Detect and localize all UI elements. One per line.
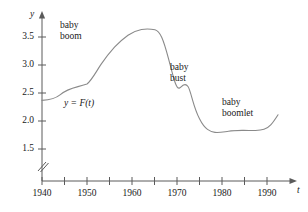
- annotation-baby-boom-line2: boom: [60, 31, 82, 42]
- x-axis-arrow-icon: [290, 178, 298, 184]
- x-tick-label-1940: 1940: [22, 189, 62, 199]
- annotation-baby-boom-line1: baby: [60, 20, 82, 31]
- y-tick-label-2.5: 2.5: [6, 88, 34, 98]
- annotation-baby-boomlet: baby boomlet: [222, 97, 253, 118]
- x-tick-label-1960: 1960: [112, 189, 152, 199]
- annotation-baby-boomlet-line2: boomlet: [222, 108, 253, 119]
- y-axis-label: y: [30, 10, 34, 20]
- chart-figure: 3.5 3.0 2.5 2.0 1.5 1940 1950 1960 1970 …: [0, 0, 308, 212]
- chart-plot-area: [0, 0, 308, 212]
- annotation-baby-bust-line1: baby: [170, 62, 188, 73]
- y-axis-arrow-icon: [39, 11, 45, 19]
- function-label: y = F(t): [64, 99, 94, 109]
- x-tick-label-1980: 1980: [202, 189, 242, 199]
- y-tick-label-3.0: 3.0: [6, 60, 34, 70]
- annotation-baby-boomlet-line1: baby: [222, 97, 253, 108]
- x-tick-label-1990: 1990: [247, 189, 287, 199]
- annotation-baby-bust: baby bust: [170, 62, 188, 83]
- y-tick-label-2.0: 2.0: [6, 116, 34, 126]
- x-axis-label: t: [297, 186, 300, 196]
- y-tick-label-3.5: 3.5: [6, 32, 34, 42]
- annotation-baby-bust-line2: bust: [170, 73, 188, 84]
- x-tick-label-1970: 1970: [157, 189, 197, 199]
- x-tick-label-1950: 1950: [67, 189, 107, 199]
- annotation-baby-boom: baby boom: [60, 20, 82, 41]
- y-tick-label-1.5: 1.5: [6, 144, 34, 154]
